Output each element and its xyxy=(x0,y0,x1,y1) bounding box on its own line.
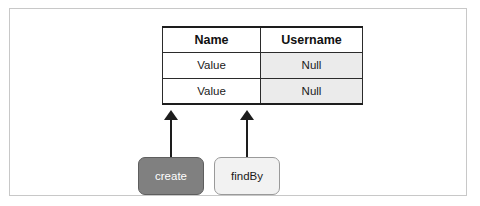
table-row: Value Null xyxy=(163,78,363,104)
arrow-shaft xyxy=(170,118,172,158)
cell-name-value: Value xyxy=(163,52,261,78)
figure-frame: Name Username Value Null Value Null crea… xyxy=(9,8,467,196)
method-box-findby: findBy xyxy=(214,157,280,195)
arrow-create-to-name-column xyxy=(163,110,179,158)
column-header-username: Username xyxy=(261,27,363,52)
entity-table: Name Username Value Null Value Null xyxy=(162,26,363,105)
table-row: Value Null xyxy=(163,52,363,78)
cell-name-value: Value xyxy=(163,78,261,104)
arrow-findby-to-username-column xyxy=(239,110,255,158)
method-box-create: create xyxy=(138,157,204,195)
caption-remnant xyxy=(0,0,480,1)
column-header-name: Name xyxy=(163,27,261,52)
arrow-shaft xyxy=(246,118,248,158)
cell-username-value: Null xyxy=(261,52,363,78)
table-header-row: Name Username xyxy=(163,27,363,52)
cell-username-value: Null xyxy=(261,78,363,104)
